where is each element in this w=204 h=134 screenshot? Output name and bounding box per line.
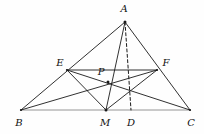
vertex-dot-m	[105, 109, 108, 112]
point-label-a: A	[120, 4, 127, 14]
vertex-dot-b	[20, 109, 22, 111]
point-label-f: F	[163, 58, 170, 68]
point-label-p: P	[98, 67, 105, 77]
geometry-figure: AEFPBMDC	[0, 0, 204, 134]
point-label-b: B	[15, 118, 22, 128]
point-label-d: D	[127, 118, 135, 128]
side-AC	[125, 22, 190, 110]
vertex-dot-a	[124, 21, 127, 24]
vertex-dot-c	[189, 109, 191, 111]
point-label-e: E	[56, 58, 63, 68]
segment-BF	[21, 70, 157, 110]
altitude-AD	[125, 22, 131, 110]
vertex-dot-e	[66, 69, 68, 71]
vertex-dot-f	[156, 69, 158, 71]
point-label-c: C	[187, 118, 195, 128]
point-label-m: M	[100, 118, 110, 128]
vertex-dot-p	[107, 81, 110, 84]
side-AB	[21, 22, 125, 110]
